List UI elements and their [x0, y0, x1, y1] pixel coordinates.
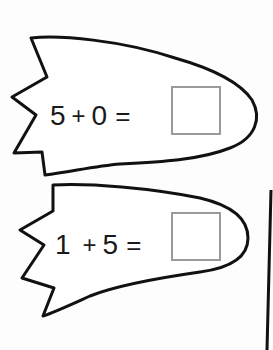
addend-a: 1 [55, 231, 71, 259]
answer-box-2[interactable] [171, 212, 221, 261]
equals-sign: = [126, 232, 141, 258]
plus-sign: + [83, 233, 97, 257]
answer-box-1[interactable] [171, 86, 221, 135]
comet-shapes [0, 0, 273, 350]
problem-1: 5 + 0 = [50, 102, 130, 130]
plus-sign: + [72, 104, 86, 128]
worksheet-page: 5 + 0 = 1 + 5 = [0, 0, 273, 350]
addend-b: 0 [92, 102, 108, 130]
addend-b: 5 [103, 231, 119, 259]
page-edge-line [267, 190, 271, 350]
addend-a: 5 [50, 102, 66, 130]
problem-2: 1 + 5 = [55, 231, 141, 259]
equals-sign: = [115, 103, 130, 129]
